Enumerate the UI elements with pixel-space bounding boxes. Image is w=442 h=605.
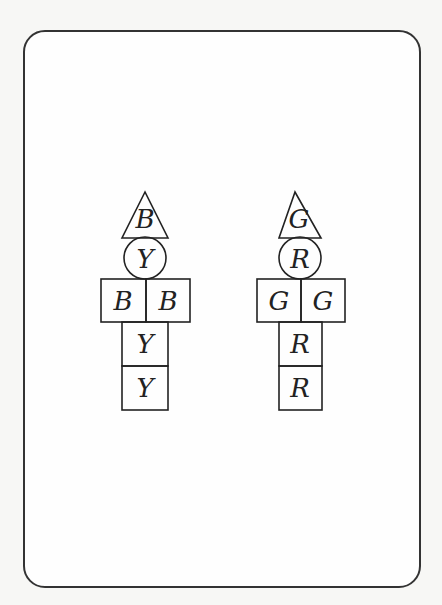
left-hat-label: B [134,204,154,234]
right-body-lower-label: R [289,373,310,403]
figures-diagram: B Y B B Y Y G R G G R R [0,0,442,605]
left-head-label: Y [136,244,156,274]
right-head-label: R [289,244,310,274]
left-body-lower-label: Y [136,373,156,403]
left-body-upper-label: Y [136,329,156,359]
right-body-upper-label: R [289,329,310,359]
left-arm-left-label: B [112,286,132,316]
right-hat-label: G [289,204,310,234]
left-arm-right-label: B [157,286,177,316]
right-arm-right-label: G [313,286,334,316]
right-arm-left-label: G [269,286,290,316]
